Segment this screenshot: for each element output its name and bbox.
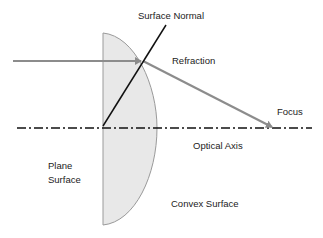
refracted-ray (143, 61, 272, 127)
diagram-canvas (0, 0, 323, 238)
plano-convex-lens-diagram: Surface Normal Refraction Focus Optical … (0, 0, 323, 238)
plane-surface-label-line1: Plane (48, 160, 72, 172)
convex-surface-label: Convex Surface (171, 198, 239, 210)
optical-axis-label: Optical Axis (193, 140, 243, 152)
focus-label: Focus (277, 106, 303, 118)
plane-surface-label-line2: Surface (48, 174, 81, 186)
surface-normal-label: Surface Normal (138, 10, 204, 22)
refraction-label: Refraction (172, 55, 215, 67)
